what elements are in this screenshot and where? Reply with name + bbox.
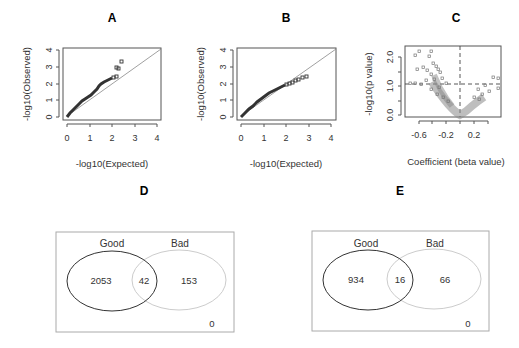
reference-line (241, 49, 336, 116)
y-tick: 4 (218, 47, 228, 52)
x-axis-label: -log10(Expected) (250, 158, 322, 169)
y-tick: 0 (44, 114, 54, 119)
y-tick: 1 (218, 97, 228, 102)
venn-count-both: 16 (395, 274, 406, 285)
x-tick: 4 (154, 133, 159, 143)
y-tick: 1.0 (385, 80, 395, 93)
venn-count-neither: 0 (209, 318, 214, 329)
x-tick: 0 (64, 133, 69, 143)
y-tick: 0 (218, 114, 228, 119)
data-points (67, 60, 123, 117)
venn-count-good-only: 934 (348, 274, 364, 285)
panel-b: B 0 1 2 3 4 0 1 2 3 4 -log10(Expected) -… (195, 11, 336, 169)
x-axis (241, 124, 331, 127)
x-axis (419, 121, 488, 124)
figure: A 0 1 2 3 4 0 1 2 3 4 -log10(Expected) -… (0, 0, 519, 348)
venn-label-bad: Bad (171, 238, 189, 249)
x-axis (67, 124, 157, 127)
x-axis-label: -log10(Expected) (76, 158, 148, 169)
x-tick: 0.2 (468, 130, 481, 140)
venn-label-good: Good (354, 238, 378, 249)
y-tick: 2 (44, 81, 54, 86)
venn-count-good-only: 2053 (90, 275, 111, 286)
x-tick: -0.2 (438, 130, 454, 140)
venn-count-bad-only: 66 (440, 274, 451, 285)
x-tick: 2 (109, 133, 114, 143)
y-axis-label: -log10(Observed) (21, 47, 32, 121)
venn-count-neither: 0 (465, 318, 470, 329)
reference-line (67, 49, 161, 116)
venn-count-both: 42 (139, 275, 150, 286)
venn-count-bad-only: 153 (181, 275, 197, 286)
x-tick: 3 (306, 133, 311, 143)
x-tick: 1 (261, 133, 266, 143)
x-tick: 0 (238, 133, 243, 143)
x-axis-label: Coefficient (beta value) (407, 156, 505, 167)
panel-e: E Good Bad 934 16 66 0 (312, 184, 489, 331)
data-points (409, 50, 500, 115)
venn-label-good: Good (100, 238, 124, 249)
x-tick: 1 (87, 133, 92, 143)
data-points (241, 75, 308, 117)
x-tick: 2 (283, 133, 288, 143)
panel-c: C 0.0 1.0 2.0 -0.6 -0.2 0.2 Coefficient … (363, 11, 505, 167)
y-axis (56, 50, 59, 117)
panel-d: D Good Bad 2053 42 153 0 (56, 184, 234, 332)
panel-a-title: A (108, 11, 117, 25)
panel-c-title: C (452, 11, 461, 25)
panel-a: A 0 1 2 3 4 0 1 2 3 4 -log10(Expected) -… (21, 11, 161, 169)
y-axis-label: -log10(p value) (363, 52, 374, 115)
y-tick: 3 (218, 64, 228, 69)
x-tick: 3 (132, 133, 137, 143)
y-axis-label: -log10(Observed) (195, 47, 206, 121)
y-tick: 3 (44, 64, 54, 69)
y-tick: 4 (44, 47, 54, 52)
panel-b-title: B (282, 11, 291, 25)
x-tick: 4 (328, 133, 333, 143)
y-tick: 0.0 (385, 109, 395, 122)
y-tick: 2 (218, 81, 228, 86)
venn-label-bad: Bad (426, 238, 444, 249)
x-tick: -0.6 (411, 130, 427, 140)
panel-e-title: E (396, 184, 404, 198)
panel-d-title: D (140, 184, 149, 198)
y-axis (398, 57, 401, 115)
y-tick: 2.0 (385, 51, 395, 64)
y-axis (230, 50, 233, 117)
y-tick: 1 (44, 97, 54, 102)
